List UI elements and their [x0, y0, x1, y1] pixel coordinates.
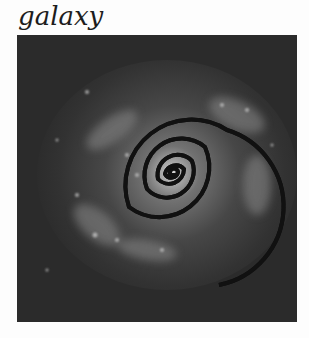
figure-title: galaxy: [18, 0, 103, 32]
galaxy-svg: [17, 35, 297, 322]
galaxy-image: [17, 35, 297, 322]
